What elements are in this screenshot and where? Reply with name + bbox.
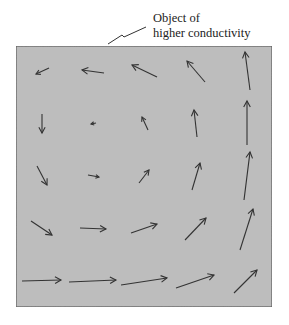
annotation-leader-line <box>108 27 146 44</box>
diagram-canvas <box>0 0 289 325</box>
annotation-label-line2: higher conductivity <box>153 26 251 40</box>
annotation-label-line1: Object of <box>153 11 200 25</box>
vector-field-diagram: Object of higher conductivity <box>0 0 289 325</box>
